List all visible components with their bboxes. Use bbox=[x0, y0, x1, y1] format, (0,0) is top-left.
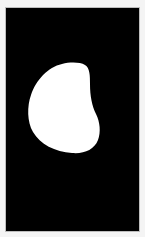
bean-silhouette-icon bbox=[0, 0, 145, 237]
image-frame bbox=[0, 0, 145, 237]
bean-shape bbox=[28, 63, 100, 154]
